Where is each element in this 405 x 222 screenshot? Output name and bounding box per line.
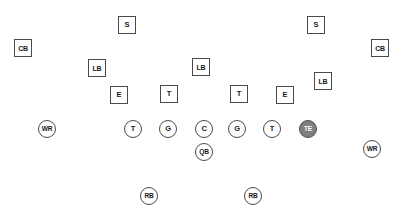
player-offensive-guard-left: G [159, 120, 177, 138]
player-offensive-tackle-left: T [124, 120, 142, 138]
player-linebacker-right: LB [314, 72, 332, 90]
player-cornerback-left: CB [14, 39, 32, 57]
player-linebacker-middle: LB [192, 58, 210, 76]
player-defensive-end-right: E [276, 86, 294, 104]
player-tight-end: TE [299, 120, 317, 138]
player-wide-receiver-left: WR [38, 120, 56, 138]
player-center: C [195, 120, 213, 138]
player-running-back-left: RB [140, 187, 158, 205]
player-defensive-tackle-right: T [230, 85, 248, 103]
player-safety-left: S [118, 16, 136, 34]
player-cornerback-right: CB [371, 39, 389, 57]
player-safety-right: S [307, 16, 325, 34]
player-wide-receiver-right: WR [363, 140, 381, 158]
formation-diagram: SSCBCBLBLBLBETTEWRTGCGTTEQBWRRBRB [0, 0, 405, 222]
player-offensive-tackle-right: T [263, 120, 281, 138]
player-linebacker-left: LB [88, 59, 106, 77]
player-quarterback: QB [195, 143, 213, 161]
player-offensive-guard-right: G [228, 120, 246, 138]
player-defensive-end-left: E [110, 86, 128, 104]
player-defensive-tackle-left: T [160, 85, 178, 103]
player-running-back-right: RB [244, 187, 262, 205]
